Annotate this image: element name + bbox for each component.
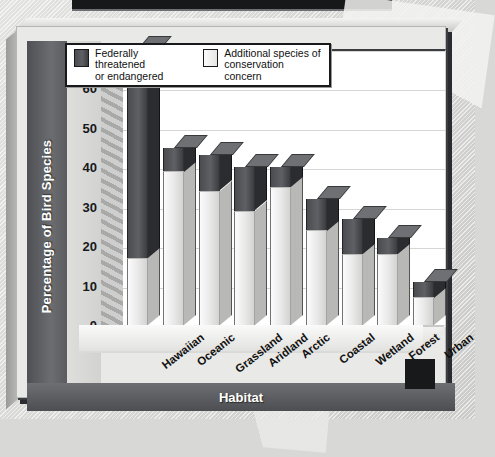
bar-face [234,167,255,210]
corner-block-decoration [405,359,435,389]
bar-column [163,148,184,325]
bar-side [148,248,160,325]
bar-face [342,254,363,325]
bar-top-cap [174,135,208,148]
bar-column [306,199,327,325]
legend-label: Federally threatened or endangered [95,48,189,83]
bar-column [377,238,398,325]
bar-segment-federally-threatened [342,219,363,254]
bar-face [377,254,398,325]
bar-column [127,49,148,325]
legend-item: Additional species of conservation conce… [196,48,329,83]
bar-segment-federally-threatened [377,238,398,254]
x-tick-label: Coastal [337,331,377,366]
y-axis-title: Percentage of Bird Species [40,139,55,313]
legend-swatch-dark [74,49,89,67]
figure-body: Percentage of Bird Species 7060504030201… [16,26,446,398]
bar-side [327,220,339,325]
bar-face [127,258,148,325]
bar-column [199,155,220,325]
y-tick-label: 20 [67,239,97,254]
y-axis-tick-column: 706050403020100 [67,41,101,411]
bar-face [163,171,184,325]
bar-column [413,282,434,325]
bar-segment-additional-species [127,258,148,325]
bar-side [363,244,375,325]
bar-side [184,161,196,325]
plot-sidewall-hatched [101,57,124,325]
bar-column [342,219,363,325]
bar-face [163,148,184,172]
bar-column [270,167,291,325]
bar-group [123,49,445,325]
legend-swatch-light [203,49,218,67]
x-axis-tick-labels: HawaiianOceanicGrasslandAridlandArcticCo… [101,327,445,387]
bar-segment-federally-threatened [234,167,255,210]
chart-figure: Percentage of Bird Species 7060504030201… [6,12,452,404]
bar-side [398,244,410,325]
bar-top-cap [353,206,387,219]
chart-legend: Federally threatened or endangeredAdditi… [65,43,331,87]
bar-segment-additional-species [270,187,291,325]
bar-side [291,177,303,325]
bar-side [255,201,267,325]
bar-segment-additional-species [342,254,363,325]
legend-label: Additional species of conservation conce… [224,48,322,83]
bar-segment-federally-threatened [306,199,327,231]
bar-segment-additional-species [199,191,220,325]
bar-segment-federally-threatened [199,155,220,190]
bar-column [234,167,255,325]
bar-face [413,282,434,298]
bar-segment-additional-species [234,211,255,325]
bar-top-cap [245,154,279,167]
bar-face [199,155,220,190]
x-axis-title-band: Habitat [27,383,455,411]
bar-face [270,187,291,325]
bar-face [234,211,255,325]
y-tick-label: 30 [67,199,97,214]
bar-top-cap [317,186,351,199]
bar-side [220,181,232,325]
bar-segment-additional-species [306,230,327,325]
legend-item: Federally threatened or endangered [67,48,196,83]
bar-face [270,167,291,187]
bar-face [377,238,398,254]
bar-segment-federally-threatened [270,167,291,187]
bar-segment-additional-species [377,254,398,325]
bar-face [306,230,327,325]
bar-face [342,219,363,254]
y-axis-title-band: Percentage of Bird Species [27,41,67,411]
bar-top-cap [388,225,422,238]
bar-segment-additional-species [413,297,434,325]
bar-face [199,191,220,325]
bar-top-cap [281,154,315,167]
bar-segment-federally-threatened [163,148,184,172]
bar-face [413,297,434,325]
bar-top-cap [209,142,243,155]
bar-face [306,199,327,231]
bar-segment-additional-species [163,171,184,325]
x-axis-title: Habitat [219,390,263,405]
y-tick-label: 40 [67,160,97,175]
y-tick-label: 10 [67,278,97,293]
bar-segment-federally-threatened [413,282,434,298]
y-tick-label: 50 [67,120,97,135]
